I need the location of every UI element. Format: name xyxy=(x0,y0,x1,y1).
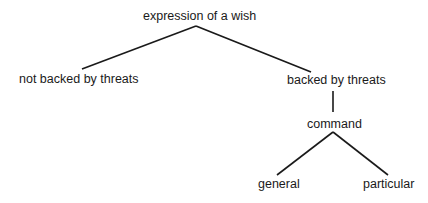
node-particular: particular xyxy=(363,177,414,191)
node-expression-of-a-wish: expression of a wish xyxy=(143,9,256,23)
edge-command-to-particular xyxy=(333,132,388,175)
edge-command-to-general xyxy=(277,132,333,175)
node-command: command xyxy=(307,117,362,131)
tree-edges xyxy=(0,0,428,203)
edge-root-to-backed xyxy=(196,26,311,72)
node-backed-by-threats: backed by threats xyxy=(287,73,386,87)
edge-root-to-not-backed xyxy=(82,26,196,69)
node-not-backed-by-threats: not backed by threats xyxy=(19,72,139,86)
node-general: general xyxy=(258,177,300,191)
